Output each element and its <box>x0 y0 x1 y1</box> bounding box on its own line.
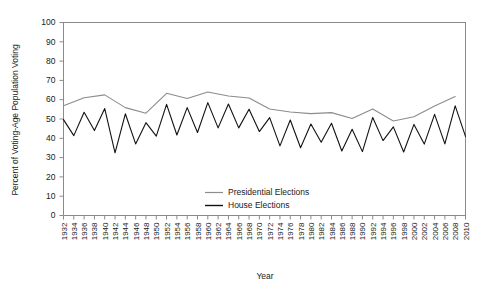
legend-label-house-elections: House Elections <box>228 200 289 210</box>
x-tick-label: 1954 <box>173 222 182 240</box>
x-tick-label: 1940 <box>101 222 110 240</box>
x-tick-label: 2008 <box>451 222 460 240</box>
x-axis-tick-marks <box>64 216 466 220</box>
x-tick-label: 1942 <box>111 222 120 240</box>
x-axis-tick-labels: 1932193419361938194019421944194619481950… <box>60 222 471 240</box>
x-tick-label: 1944 <box>121 222 130 240</box>
x-tick-label: 2010 <box>462 222 471 240</box>
y-tick-label: 80 <box>46 56 56 66</box>
x-tick-label: 1974 <box>276 222 285 240</box>
y-tick-label: 10 <box>46 191 56 201</box>
x-tick-label: 2002 <box>420 222 429 240</box>
series-line-house-elections <box>64 103 466 153</box>
y-tick-label: 70 <box>46 75 56 85</box>
x-tick-label: 1990 <box>358 222 367 240</box>
y-axis-tick-marks <box>60 23 64 216</box>
y-tick-label: 20 <box>46 172 56 182</box>
x-tick-label: 1984 <box>328 222 337 240</box>
x-tick-label: 1980 <box>307 222 316 240</box>
x-tick-label: 1998 <box>400 222 409 240</box>
legend-label-presidential-elections: Presidential Elections <box>228 187 309 197</box>
x-tick-label: 1932 <box>60 222 69 240</box>
x-tick-label: 1952 <box>163 222 172 240</box>
y-tick-label: 30 <box>46 152 56 162</box>
x-tick-label: 1986 <box>338 222 347 240</box>
y-tick-label: 40 <box>46 133 56 143</box>
x-tick-label: 1936 <box>80 222 89 240</box>
y-tick-label: 90 <box>46 37 56 47</box>
x-tick-label: 1934 <box>70 222 79 240</box>
x-tick-label: 1950 <box>152 222 161 240</box>
x-tick-label: 1962 <box>214 222 223 240</box>
y-axis-title: Percent of Voting-Age Population Voting <box>10 44 20 195</box>
x-tick-label: 1982 <box>317 222 326 240</box>
x-tick-label: 1964 <box>224 222 233 240</box>
x-tick-label: 1996 <box>389 222 398 240</box>
x-tick-label: 1946 <box>132 222 141 240</box>
x-tick-label: 1948 <box>142 222 151 240</box>
y-tick-label: 50 <box>46 114 56 124</box>
x-tick-label: 1968 <box>245 222 254 240</box>
x-tick-label: 1994 <box>379 222 388 240</box>
x-tick-label: 1976 <box>286 222 295 240</box>
x-tick-label: 1978 <box>297 222 306 240</box>
x-tick-label: 2004 <box>431 222 440 240</box>
x-axis-title-label: Year <box>256 271 273 281</box>
x-tick-label: 1938 <box>90 222 99 240</box>
x-tick-label: 1958 <box>194 222 203 240</box>
y-axis-title-label: Percent of Voting-Age Population Voting <box>10 44 20 195</box>
y-axis-tick-labels: 0102030405060708090100 <box>41 17 55 220</box>
chart-container: Percent of Voting-Age Population Voting … <box>0 0 484 294</box>
y-tick-label: 0 <box>51 210 56 220</box>
y-tick-label: 60 <box>46 94 56 104</box>
x-tick-label: 1988 <box>348 222 357 240</box>
x-tick-label: 1992 <box>369 222 378 240</box>
x-tick-label: 2006 <box>441 222 450 240</box>
x-tick-label: 1966 <box>235 222 244 240</box>
x-tick-label: 1956 <box>183 222 192 240</box>
x-tick-label: 1960 <box>204 222 213 240</box>
chart-legend: Presidential Elections House Elections <box>205 187 309 210</box>
x-tick-label: 1972 <box>266 222 275 240</box>
voter-turnout-line-chart: Percent of Voting-Age Population Voting … <box>0 0 484 294</box>
series-line-presidential-elections <box>64 92 456 121</box>
x-tick-label: 2000 <box>410 222 419 240</box>
y-tick-label: 100 <box>41 17 55 27</box>
x-tick-label: 1970 <box>255 222 264 240</box>
